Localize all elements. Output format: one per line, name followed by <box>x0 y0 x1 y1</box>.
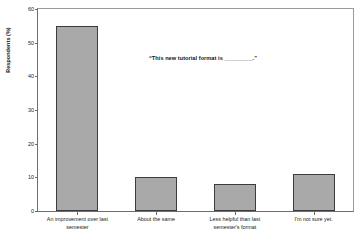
x-axis-tick-label-line: An improvement over last <box>38 216 117 224</box>
y-axis-tick-label: 40 <box>14 73 34 79</box>
annotation-suffix: .” <box>253 55 257 61</box>
x-axis-tick-labels: An improvement over lastsemesterAbout th… <box>0 216 364 245</box>
bar-chart: Respondents (%) 0102030405060 “This new … <box>0 0 364 245</box>
y-axis-tick-label: 50 <box>14 40 34 46</box>
y-axis-tick-label: 10 <box>14 174 34 180</box>
x-axis-tick-mark <box>77 212 78 215</box>
x-axis-tick-label: About the same <box>117 216 196 224</box>
annotation-prefix: “This new tutorial format is <box>149 55 224 61</box>
bar <box>214 184 256 211</box>
bars-group <box>38 9 353 211</box>
y-axis-tick-mark <box>35 144 38 145</box>
bar <box>56 26 98 211</box>
y-axis-title: Respondents (%) <box>2 10 14 90</box>
x-axis-tick-label: Less helpful than lastsemester's format <box>196 216 275 231</box>
y-axis-tick-mark <box>35 43 38 44</box>
x-axis-tick-label-line: I'm not sure yet. <box>274 216 353 224</box>
x-axis-tick-label-line: Less helpful than last <box>196 216 275 224</box>
y-axis-tick-mark <box>35 110 38 111</box>
x-axis-tick-mark <box>314 212 315 215</box>
x-axis-tick-mark <box>156 212 157 215</box>
y-axis-tick-labels: 0102030405060 <box>14 0 34 215</box>
x-axis-tick-label: I'm not sure yet. <box>274 216 353 224</box>
y-axis-tick-mark <box>35 211 38 212</box>
x-axis-tick-label-line: About the same <box>117 216 196 224</box>
x-axis-tick-mark <box>235 212 236 215</box>
y-axis-tick-mark <box>35 76 38 77</box>
annotation-blank: __________ <box>224 55 252 61</box>
bar <box>135 177 177 211</box>
y-axis-tick-label: 0 <box>14 208 34 214</box>
y-axis-tick-mark <box>35 177 38 178</box>
x-axis-tick-label-line: semester <box>38 224 117 232</box>
y-axis-tick-label: 20 <box>14 141 34 147</box>
y-axis-tick-mark <box>35 9 38 10</box>
y-axis-tick-label: 30 <box>14 107 34 113</box>
x-axis-tick-label-line: semester's format <box>196 224 275 232</box>
x-axis-tick-label: An improvement over lastsemester <box>38 216 117 231</box>
y-axis-tick-label: 60 <box>14 6 34 12</box>
bar <box>293 174 335 211</box>
chart-annotation: “This new tutorial format is __________.… <box>128 55 278 61</box>
